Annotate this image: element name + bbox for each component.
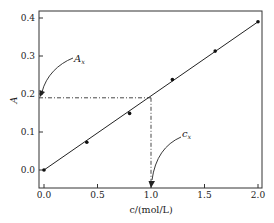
x-tick-0: 0.0 <box>37 190 52 200</box>
y-tick-4: 0.4 <box>21 13 36 23</box>
x-tick-1: 0.5 <box>90 190 105 200</box>
arrow-cx-icon <box>152 137 181 180</box>
reference-lines <box>39 98 151 188</box>
arrowhead-ax-icon <box>40 90 46 97</box>
data-point <box>85 141 89 145</box>
fit-line <box>44 22 258 170</box>
annotation-cx: cx <box>149 128 192 188</box>
data-point <box>128 112 132 116</box>
y-tick-2: 0.2 <box>21 89 35 99</box>
y-tick-1: 0.1 <box>21 127 35 137</box>
y-axis-tick-labels: 0.0 0.1 0.2 0.3 0.4 <box>21 13 36 175</box>
data-point <box>213 49 217 53</box>
x-axis-label: c/(mol/L) <box>129 204 172 215</box>
x-tick-2: 1.0 <box>144 190 159 200</box>
x-tick-3: 1.5 <box>197 190 212 200</box>
arrowhead-cx-icon <box>149 181 156 188</box>
annotation-ax: Ax <box>40 53 86 97</box>
data-point <box>171 78 175 82</box>
y-axis-label: A <box>8 96 19 104</box>
arrow-ax-icon <box>42 58 73 92</box>
x-axis-tick-labels: 0.0 0.5 1.0 1.5 2.0 <box>37 190 266 200</box>
annotation-cx-label: cx <box>182 128 192 141</box>
data-point <box>256 20 260 24</box>
plot-frame <box>39 11 262 188</box>
y-tick-3: 0.3 <box>21 51 36 61</box>
y-tick-0: 0.0 <box>21 165 36 175</box>
calibration-chart: 0.0 0.1 0.2 0.3 0.4 0.0 0.5 1.0 1.5 2.0 … <box>0 0 274 223</box>
data-point <box>42 168 46 172</box>
x-tick-4: 2.0 <box>251 190 266 200</box>
annotation-ax-label: Ax <box>73 53 85 66</box>
